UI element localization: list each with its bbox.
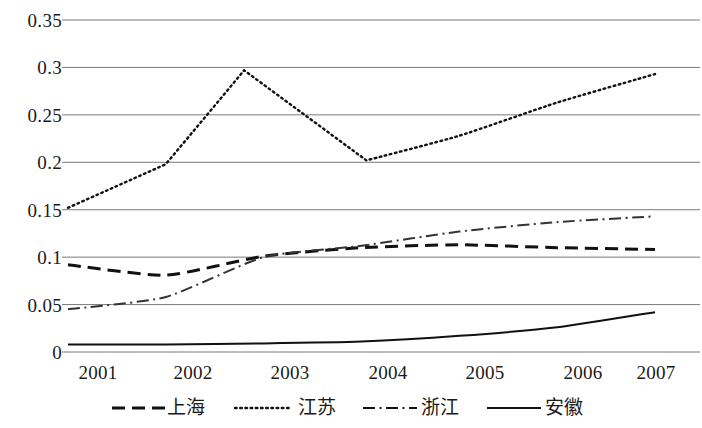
xtick-label-2003: 2003 — [250, 363, 330, 382]
line-chart: 0.35 0.3 0.25 0.2 0.15 0.1 0.05 0 2001 2… — [0, 0, 702, 428]
xtick-label-2006: 2006 — [543, 363, 623, 382]
gridlines-group — [62, 20, 700, 352]
series-lines-group — [68, 70, 655, 344]
series-line-anhui — [68, 312, 655, 344]
legend-label-zhejiang[interactable]: 浙江 — [421, 398, 459, 417]
ytick-label-0: 0 — [0, 343, 62, 362]
ytick-label-0.3: 0.3 — [0, 58, 62, 77]
legend-label-jiangsu[interactable]: 江苏 — [298, 398, 336, 417]
ytick-label-0.25: 0.25 — [0, 106, 62, 125]
ytick-label-0.35: 0.35 — [0, 11, 62, 30]
xtick-label-2002: 2002 — [153, 363, 233, 382]
ytick-label-0.2: 0.2 — [0, 153, 62, 172]
xtick-label-2007: 2007 — [616, 363, 696, 382]
series-line-zhejiang — [68, 216, 655, 309]
series-line-shanghai — [68, 245, 655, 275]
ytick-label-0.05: 0.05 — [0, 296, 62, 315]
legend-label-anhui: 安徽 — [545, 398, 583, 417]
legend-label-shanghai[interactable]: 上海 — [167, 398, 205, 417]
ytick-label-0.15: 0.15 — [0, 201, 62, 220]
xtick-label-2001: 2001 — [58, 363, 138, 382]
series-line-jiangsu — [68, 70, 655, 208]
xtick-label-2005: 2005 — [445, 363, 525, 382]
xtick-label-2004: 2004 — [348, 363, 428, 382]
ytick-label-0.1: 0.1 — [0, 248, 62, 267]
